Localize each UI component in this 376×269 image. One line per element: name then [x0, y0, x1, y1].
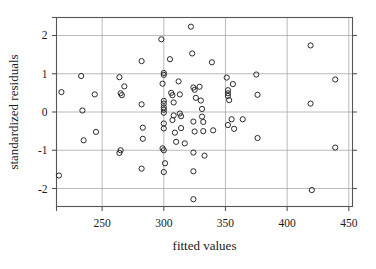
y-tick-label: -1 [38, 144, 48, 156]
data-point [182, 141, 187, 146]
data-point [59, 90, 64, 95]
data-point [198, 98, 203, 103]
data-point [199, 106, 204, 111]
data-point [211, 128, 216, 133]
data-point [202, 153, 207, 158]
data-point [240, 117, 245, 122]
data-point [167, 57, 172, 62]
data-point [232, 126, 237, 131]
data-point [192, 129, 197, 134]
data-point [201, 119, 206, 124]
data-point [230, 81, 235, 86]
x-tick-label: 450 [340, 217, 358, 229]
data-point [162, 161, 167, 166]
data-point [191, 197, 196, 202]
data-point [139, 166, 144, 171]
y-axis-title: standardized residuals [6, 54, 21, 169]
scatter-plot-figure: 210-1-2250300350400450fitted valuesstand… [0, 0, 376, 269]
data-point [224, 75, 229, 80]
data-point [229, 117, 234, 122]
data-point [255, 92, 260, 97]
y-tick-label: 1 [42, 68, 48, 80]
data-point [171, 100, 176, 105]
x-tick-label: 400 [279, 217, 297, 229]
data-point [190, 51, 195, 56]
data-point [159, 37, 164, 42]
data-point [191, 119, 196, 124]
data-point [197, 84, 202, 89]
data-point [160, 81, 165, 86]
data-point [122, 84, 127, 89]
data-point [188, 24, 193, 29]
data-point [178, 125, 183, 130]
data-point [193, 95, 198, 100]
data-point [255, 135, 260, 140]
data-point [333, 77, 338, 82]
y-tick-label: 0 [42, 106, 48, 118]
data-point [191, 169, 196, 174]
y-tick-label: 2 [42, 29, 48, 41]
data-points-layer [56, 24, 337, 202]
data-point [79, 73, 84, 78]
data-point [308, 101, 313, 106]
data-point [176, 79, 181, 84]
data-point [139, 102, 144, 107]
x-tick-label: 350 [217, 217, 235, 229]
tick-labels: 210-1-2250300350400450 [38, 29, 358, 228]
data-point [56, 173, 61, 178]
data-point [140, 125, 145, 130]
data-point [93, 129, 98, 134]
data-point [177, 92, 182, 97]
data-point [191, 150, 196, 155]
y-tick-label: -2 [38, 183, 48, 195]
data-point [117, 75, 122, 80]
x-axis-title: fitted values [173, 238, 237, 253]
data-point [308, 43, 313, 48]
data-point [333, 145, 338, 150]
data-point [174, 139, 179, 144]
x-tick-label: 250 [94, 217, 112, 229]
data-point [201, 129, 206, 134]
data-point [209, 60, 214, 65]
data-point [172, 130, 177, 135]
data-point [225, 122, 230, 127]
data-point [199, 114, 204, 119]
chart-canvas: 210-1-2250300350400450fitted valuesstand… [0, 0, 376, 269]
data-point [254, 72, 259, 77]
data-point [92, 92, 97, 97]
data-point [81, 138, 86, 143]
data-point [140, 136, 145, 141]
data-point [139, 59, 144, 64]
x-tick-label: 300 [155, 217, 173, 229]
tick-marks [52, 18, 357, 212]
